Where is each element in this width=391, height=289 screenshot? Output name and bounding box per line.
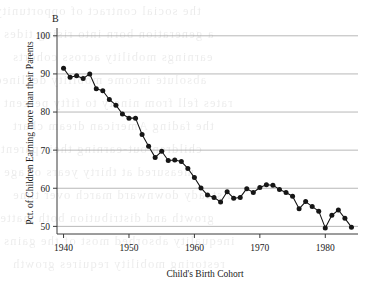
panel-letter-b: B [52,13,59,24]
data-point [257,185,262,190]
data-point [172,158,177,163]
x-tick-label: 1970 [250,243,269,253]
data-point [68,75,73,80]
y-tick-label: 80 [41,107,51,117]
data-point [329,213,334,218]
data-point [244,186,249,191]
data-point [192,175,197,180]
y-tick-label: 60 [41,184,51,194]
data-point [133,116,138,121]
data-point [166,158,171,163]
data-point [218,199,223,204]
y-axis-title: Pct. of Children Earning more than their… [25,41,35,225]
data-point [153,155,158,160]
data-point [107,97,112,102]
data-point [316,209,321,214]
data-point [349,225,354,230]
data-point [113,103,118,108]
data-point [126,116,131,121]
data-point [264,182,269,187]
data-point [100,88,105,93]
data-point [61,66,66,71]
data-point [146,144,151,149]
gridlines [57,36,358,227]
series-line [64,68,352,228]
y-tick-label: 100 [36,31,51,41]
mobility-line-chart: 5060708090100 19401950196019701980 B Chi… [0,0,391,289]
data-point [323,225,328,230]
data-point [159,149,164,154]
x-tick-label: 1960 [185,243,204,253]
data-point [87,71,92,76]
data-point [94,86,99,91]
data-point [310,204,315,209]
y-tick-label: 50 [41,222,51,232]
data-point [74,73,79,78]
data-point [179,159,184,164]
data-point [251,190,256,195]
axis-ticks [53,36,325,238]
data-point [231,196,236,201]
data-point [270,183,275,188]
y-tick-label: 90 [41,69,51,79]
x-tick-label: 1980 [316,243,335,253]
data-point [212,195,217,200]
data-point [336,207,341,212]
data-point [277,187,282,192]
data-point [297,206,302,211]
data-point [290,194,295,199]
data-point [198,185,203,190]
x-tick-label: 1950 [119,243,138,253]
data-point [284,190,289,195]
figure-panel-b: 5060708090100 19401950196019701980 B Chi… [0,0,391,289]
x-axis-title: Child's Birth Cohort [166,269,244,279]
x-tick-label: 1940 [54,243,73,253]
data-point [120,111,125,116]
axis-lines [57,28,358,234]
data-point [185,166,190,171]
data-series [64,68,352,228]
x-tick-labels: 19401950196019701980 [54,243,335,253]
data-point [238,195,243,200]
data-point [225,189,230,194]
data-point [205,193,210,198]
data-point [140,132,145,137]
data-point [81,76,86,81]
data-point-markers [61,66,354,231]
y-tick-label: 70 [41,146,51,156]
y-tick-labels: 5060708090100 [36,31,51,232]
data-point [303,199,308,204]
data-point [342,216,347,221]
